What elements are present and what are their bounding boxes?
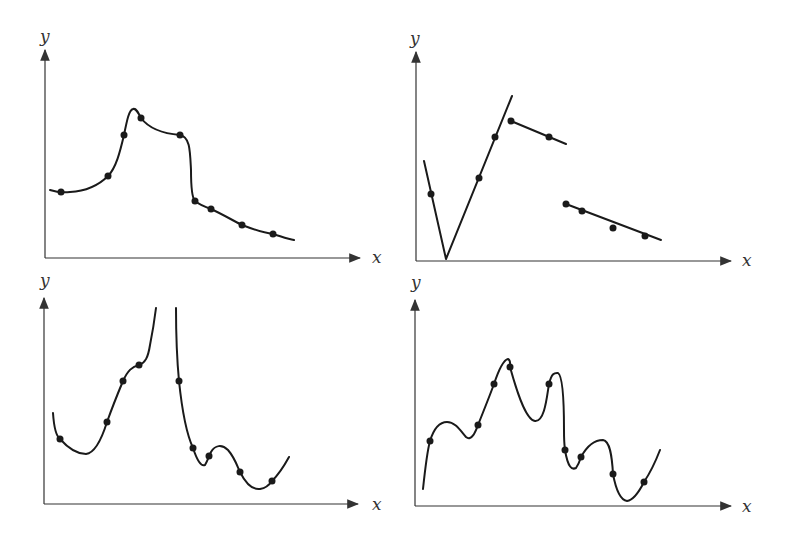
panel-top-right: y x (409, 28, 752, 270)
x-label: x (372, 247, 382, 267)
curve-right-branch (176, 308, 289, 489)
x-label: x (742, 496, 752, 516)
panel-top-left: y x (39, 26, 382, 267)
data-points (57, 362, 276, 485)
y-label: y (409, 28, 420, 48)
y-label: y (410, 272, 421, 292)
x-label: x (742, 250, 752, 270)
curve (423, 359, 660, 501)
y-label: y (39, 26, 50, 46)
curve-segment-v (424, 96, 512, 259)
x-label: x (372, 494, 382, 514)
panel-bottom-right: y x (410, 272, 752, 516)
curve-left-branch (53, 308, 156, 454)
curve (50, 109, 294, 240)
curve-segment-2 (511, 121, 566, 144)
figure: y x y x y x (0, 0, 792, 536)
data-points (427, 364, 648, 486)
y-label: y (39, 270, 50, 290)
panel-bottom-left: y x (39, 270, 382, 514)
